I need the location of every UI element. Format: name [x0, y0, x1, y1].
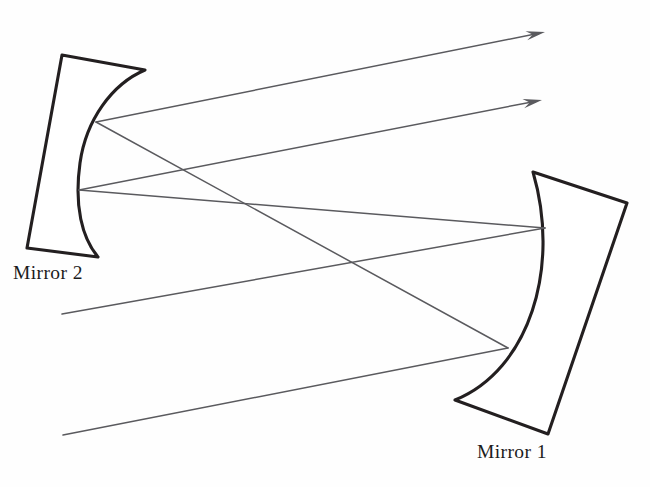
optics-canvas: [0, 0, 650, 487]
ray-output-lower: [79, 101, 535, 190]
mirror-2-label: Mirror 2: [13, 262, 83, 284]
ray-m1-upper-to-m2-lower: [79, 190, 545, 228]
ray-m1-lower-to-m2-upper: [96, 122, 508, 348]
ray-output-upper: [96, 33, 538, 122]
optical-ray-diagram: Mirror 2 Mirror 1: [0, 0, 650, 487]
ray-input-upper: [62, 228, 545, 314]
mirror-2-body: [27, 55, 145, 257]
mirror-1-body: [455, 172, 627, 434]
mirror-1-label: Mirror 1: [477, 441, 547, 463]
ray-input-lower: [63, 348, 508, 435]
